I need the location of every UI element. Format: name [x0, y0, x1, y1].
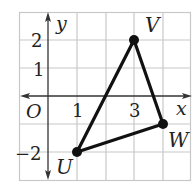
- point-w-label: W: [168, 128, 190, 152]
- point-u-label: U: [56, 155, 74, 179]
- tick-label-y-2: 2: [31, 30, 42, 51]
- tick-label-x-1: 1: [72, 100, 83, 121]
- tick-label-y-1: 1: [33, 59, 44, 80]
- point-w: [158, 119, 168, 129]
- origin-label: O: [26, 100, 42, 122]
- tick-label-x-3: 3: [129, 100, 140, 121]
- point-v-label: V: [145, 13, 162, 37]
- x-axis-label: x: [176, 97, 187, 119]
- y-axis-label: y: [55, 12, 67, 34]
- point-u: [72, 147, 82, 157]
- tick-label-y-neg2: −2: [15, 143, 42, 164]
- coordinate-plane: y x O 1 3 2 1 −2 V W U: [0, 0, 196, 194]
- point-v: [129, 35, 139, 45]
